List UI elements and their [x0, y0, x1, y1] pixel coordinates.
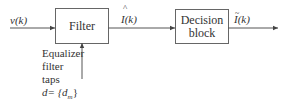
- intermediate-accent: ^: [123, 4, 127, 13]
- decision-label-line2: block: [176, 27, 228, 40]
- taps-label-line3: taps: [42, 73, 84, 86]
- intermediate-signal-label: I(k): [121, 13, 137, 25]
- output-signal-label: I(k): [234, 13, 250, 25]
- taps-label-line2: filter: [42, 60, 84, 73]
- taps-formula: d= {d: [42, 86, 68, 98]
- taps-label-line4: d= {dm}: [42, 86, 84, 102]
- taps-label: Equalizer filter taps d= {dm}: [42, 47, 84, 102]
- taps-formula-end: }: [73, 86, 78, 98]
- decision-label: Decision block: [176, 14, 228, 40]
- taps-label-line1: Equalizer: [42, 47, 84, 60]
- filter-label: Filter: [56, 20, 108, 33]
- input-signal-label: v(k): [10, 14, 27, 26]
